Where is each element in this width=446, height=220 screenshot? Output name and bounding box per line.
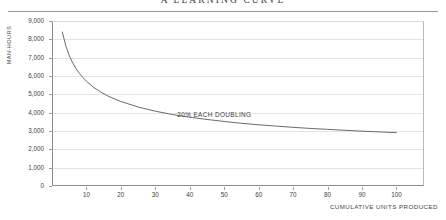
x-tick-label: 50 [211,191,237,198]
y-tick-label: 5,000 [4,90,44,97]
y-tick-label: 9,000 [4,17,44,24]
y-tick-label: 3,000 [4,127,44,134]
y-tick-label: 2,000 [4,145,44,152]
y-tick-label: 7,000 [4,54,44,61]
x-tick-mark [86,187,87,190]
x-tick-mark [293,187,294,190]
x-tick-label: 40 [177,191,203,198]
x-tick-label: 30 [142,191,168,198]
y-axis-label: MAN-HOURS [6,15,12,75]
y-tick-label: 1,000 [4,164,44,171]
x-tick-label: 60 [246,191,272,198]
x-tick-mark [259,187,260,190]
y-tick-label: 8,000 [4,35,44,42]
x-tick-label: 90 [349,191,375,198]
x-tick-label: 10 [73,191,99,198]
x-tick-mark [224,187,225,190]
x-tick-mark [328,187,329,190]
y-tick-label: 0 [4,182,44,189]
x-tick-label: 80 [315,191,341,198]
x-tick-label: 20 [108,191,134,198]
x-tick-mark [190,187,191,190]
x-tick-mark [155,187,156,190]
x-axis-label: CUMULATIVE UNITS PRODUCED [330,203,438,210]
x-tick-mark [121,187,122,190]
page-title: A LEARNING CURVE [0,0,446,5]
y-tick-label: 4,000 [4,109,44,116]
chart-page: A LEARNING CURVE MAN-HOURS CUMULATIVE UN… [0,0,446,220]
plot-area [52,21,424,186]
title-divider [8,11,438,12]
y-tick-mark [49,186,52,187]
x-tick-label: 70 [280,191,306,198]
x-tick-label: 100 [383,191,409,198]
y-tick-label: 6,000 [4,72,44,79]
learning-curve-line [52,21,424,186]
x-tick-mark [362,187,363,190]
x-tick-mark [396,187,397,190]
curve-annotation: 20% EACH DOUBLING [177,111,251,118]
